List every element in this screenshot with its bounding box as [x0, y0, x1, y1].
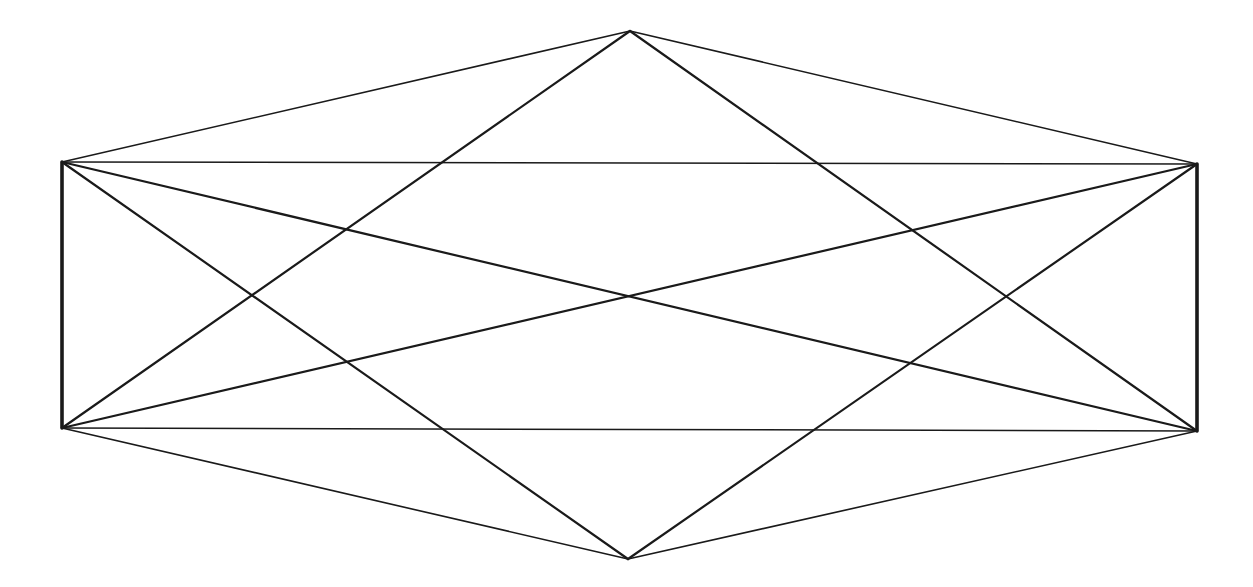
- diagram-background: [0, 0, 1253, 587]
- geometric-line-diagram: [0, 0, 1253, 587]
